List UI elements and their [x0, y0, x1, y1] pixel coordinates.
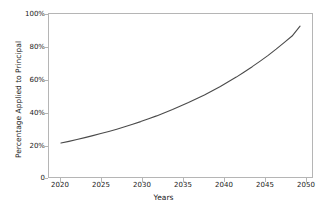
x-tick-mark — [60, 178, 61, 182]
y-tick-label: 40% — [29, 110, 45, 117]
x-tick-mark — [142, 178, 143, 182]
x-tick-mark — [101, 178, 102, 182]
x-tick-label: 2040 — [215, 182, 233, 189]
x-tick-mark — [224, 178, 225, 182]
y-tick-label: 20% — [29, 143, 45, 150]
y-tick-label: 80% — [29, 44, 45, 51]
x-tick-label: 2030 — [133, 182, 151, 189]
y-axis-label: Percentage Applied to Principal — [14, 30, 23, 170]
x-tick-mark — [183, 178, 184, 182]
y-tick-label: 100% — [25, 11, 45, 18]
x-tick-label: 2045 — [256, 182, 274, 189]
x-tick-label: 2035 — [174, 182, 192, 189]
y-tick-label: 60% — [29, 77, 45, 84]
line-series-principal — [61, 26, 300, 143]
x-tick-mark — [306, 178, 307, 182]
plot-area — [48, 13, 313, 178]
x-tick-mark — [265, 178, 266, 182]
x-tick-label: 2050 — [297, 182, 315, 189]
x-tick-label: 2020 — [51, 182, 69, 189]
chart-figure: Percentage Applied to Principal Years 10… — [0, 0, 327, 210]
x-tick-label: 2025 — [92, 182, 110, 189]
data-series-svg — [49, 14, 312, 177]
y-tick-mark — [44, 178, 48, 179]
x-axis-label: Years — [0, 193, 327, 202]
